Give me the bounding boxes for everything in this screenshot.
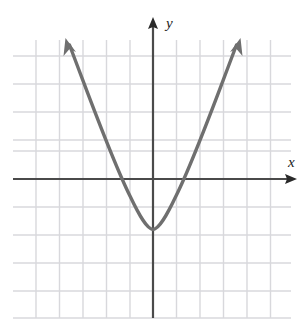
x-axis-label: x xyxy=(288,155,295,170)
y-axis-label: y xyxy=(166,16,173,31)
y-axis xyxy=(148,17,158,318)
coordinate-plane xyxy=(0,0,302,335)
x-axis xyxy=(13,174,297,184)
graph-figure: y x xyxy=(0,0,302,335)
